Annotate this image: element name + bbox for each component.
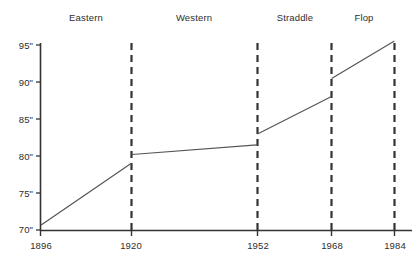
y-tick-label-95: 95"	[8, 40, 33, 51]
y-tick-label-90: 90"	[8, 77, 33, 88]
record-height-series	[42, 41, 395, 225]
y-tick-label-80: 80"	[8, 151, 33, 162]
x-tick-label-1896: 1896	[30, 240, 52, 251]
era-label-straddle: Straddle	[277, 12, 314, 23]
x-tick-label-1968: 1968	[321, 240, 343, 251]
segment-western	[132, 145, 257, 155]
era-label-western: Western	[176, 12, 212, 23]
era-label-eastern: Eastern	[69, 12, 103, 23]
segment-flop	[332, 41, 394, 78]
segment-eastern	[42, 163, 132, 224]
chart-plot-area	[0, 0, 420, 267]
era-divider-lines	[132, 43, 395, 230]
y-tick-label-85: 85"	[8, 114, 33, 125]
x-tick-label-1920: 1920	[120, 240, 142, 251]
y-tick-label-75: 75"	[8, 188, 33, 199]
x-tick-label-1952: 1952	[247, 240, 269, 251]
x-tick-label-1984: 1984	[384, 240, 406, 251]
high-jump-record-chart: Eastern Western Straddle Flop 95" 90" 85…	[0, 0, 420, 267]
era-label-flop: Flop	[354, 12, 373, 23]
x-axis-ticks	[41, 231, 395, 237]
segment-straddle	[258, 97, 331, 134]
y-tick-label-70: 70"	[8, 224, 33, 235]
